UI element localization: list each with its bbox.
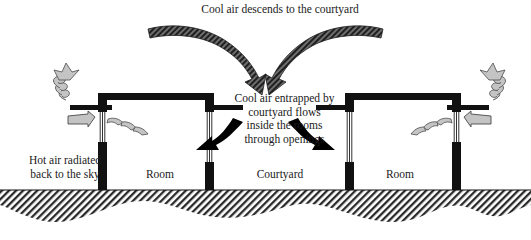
hot-air-exhaust-arrow-left [68, 111, 95, 127]
cool-air-arrow-left [148, 26, 266, 95]
top-caption: Cool air descends to the courtyard [165, 3, 395, 17]
room-left-label: Room [120, 168, 200, 182]
hot-air-spiral-right [480, 63, 506, 100]
inflow-ribbon-left [107, 118, 148, 135]
center-caption: Cool air entrapped by courtyard flows in… [222, 92, 347, 146]
left-caption: Hot air radiated back to the sky [6, 154, 124, 181]
cool-air-arrow-right [265, 26, 383, 95]
hot-air-spiral-left [53, 63, 79, 100]
hot-air-exhaust-arrow-right [464, 111, 491, 127]
courtyard-label: Courtyard [230, 168, 330, 182]
inflow-ribbon-right [411, 118, 452, 135]
room-right-label: Room [360, 168, 440, 182]
ground-hatching [0, 190, 531, 222]
diagram-canvas: Cool air descends to the courtyard Cool … [0, 0, 531, 240]
